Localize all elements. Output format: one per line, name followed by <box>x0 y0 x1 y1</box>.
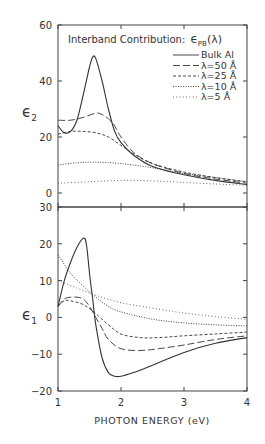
upper-y-axis-label: ϵ2 <box>22 103 37 123</box>
upper-y-ticks: 0204060 <box>39 20 247 199</box>
y-tick-label: 30 <box>39 202 52 213</box>
y-tick-label: −20 <box>31 386 52 397</box>
y-tick-label: 0 <box>46 188 52 199</box>
y-tick-label: 10 <box>39 276 52 287</box>
y-tick-label: −10 <box>31 349 52 360</box>
curve--10- <box>58 255 247 326</box>
x-tick-label: 3 <box>181 397 187 408</box>
y-tick-label: 60 <box>39 20 52 31</box>
legend-item: λ=5 Å <box>201 91 231 102</box>
x-tick-label: 2 <box>118 397 124 408</box>
y-tick-label: 40 <box>39 76 52 87</box>
curve--10- <box>58 162 247 182</box>
legend: Bulk Alλ=50 Åλ=25 Åλ=10 Åλ=5 Å <box>173 49 237 102</box>
legend-item: λ=10 Å <box>201 81 237 92</box>
lower-y-ticks: −20−100102030 <box>31 202 247 397</box>
y-tick-label: 20 <box>39 132 52 143</box>
y-tick-label: 0 <box>46 312 52 323</box>
x-tick-label: 1 <box>55 397 61 408</box>
x-axis-label: PHOTON ENERGY (eV) <box>94 415 210 426</box>
legend-item: Bulk Al <box>201 49 234 60</box>
legend-item: λ=25 Å <box>201 70 237 81</box>
curve--5- <box>58 281 247 320</box>
chart-title: Interband Contribution: ϵPB(λ) <box>68 32 222 48</box>
curve-bulk-al <box>58 238 247 377</box>
y-tick-label: 20 <box>39 239 52 250</box>
curve--25- <box>58 300 247 338</box>
curve--25- <box>58 131 247 182</box>
lower-curves <box>58 238 247 377</box>
x-tick-label: 4 <box>244 397 250 408</box>
lower-y-axis-label: ϵ1 <box>22 306 37 326</box>
lower-plot-frame <box>58 207 247 391</box>
dielectric-function-chart: 0204060 Interband Contribution: ϵPB(λ) B… <box>0 0 265 444</box>
legend-item: λ=50 Å <box>201 60 237 71</box>
curve--50- <box>58 113 247 183</box>
upper-panel-epsilon2: 0204060 Interband Contribution: ϵPB(λ) B… <box>22 20 247 207</box>
